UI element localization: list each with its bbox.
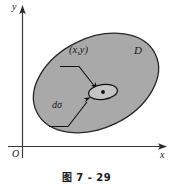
region-d-ellipse <box>17 14 173 153</box>
x-axis-label: x <box>160 150 164 160</box>
dsigma-label: dσ <box>52 100 62 110</box>
region-d-shape <box>17 14 173 153</box>
x-axis <box>8 143 167 149</box>
point-coordinate-label: (x,y) <box>69 45 88 56</box>
y-axis-label: y <box>12 2 16 12</box>
region-d-label: D <box>134 45 142 56</box>
figure-container: y x O (x,y) D dσ 图 7 - 29 <box>0 0 173 189</box>
figure-caption: 图 7 - 29 <box>0 169 173 184</box>
origin-label: O <box>12 149 19 159</box>
y-axis <box>19 5 25 158</box>
figure-drawing <box>0 0 173 189</box>
dsigma-center-dot <box>101 90 105 94</box>
